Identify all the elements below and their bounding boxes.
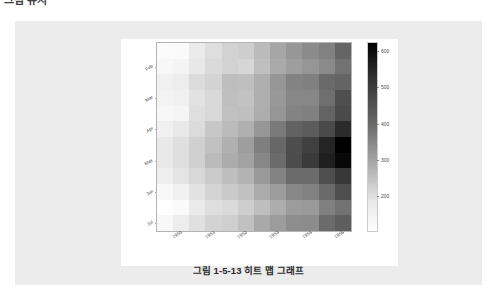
heatmap-cell <box>238 184 254 200</box>
heatmap-cell <box>189 90 205 106</box>
heatmap-cell <box>335 74 351 90</box>
heatmap-cell <box>189 43 205 59</box>
plot-canvas: FebMarAprMayJunJul 195019511952195319541… <box>121 39 398 266</box>
heatmap-cell <box>254 59 270 75</box>
heatmap-cell <box>205 74 221 90</box>
heatmap-cell <box>222 74 238 90</box>
heatmap-cell <box>205 121 221 137</box>
heatmap-cell <box>319 215 335 231</box>
heatmap-cell <box>254 184 270 200</box>
colorbar-tick-mark <box>377 51 379 52</box>
heatmap-cell <box>157 106 173 122</box>
heatmap-cell <box>157 137 173 153</box>
heatmap-cell <box>222 168 238 184</box>
heatmap-cell <box>270 184 286 200</box>
heatmap-cell <box>254 106 270 122</box>
heatmap-cell <box>335 168 351 184</box>
heatmap-cell <box>238 200 254 216</box>
heatmap-cell <box>254 90 270 106</box>
y-axis-tick-label: Jun <box>145 189 154 197</box>
heatmap-cell <box>222 200 238 216</box>
heatmap-cell <box>286 59 302 75</box>
heatmap-cell <box>319 168 335 184</box>
heatmap-cell <box>222 90 238 106</box>
heatmap-cell <box>254 168 270 184</box>
heatmap-cell <box>173 106 189 122</box>
heatmap-cell <box>189 106 205 122</box>
heatmap-cell <box>157 200 173 216</box>
colorbar-tick-mark <box>377 196 379 197</box>
colorbar-tick-mark <box>377 160 379 161</box>
heatmap-cell <box>270 215 286 231</box>
heatmap-cells <box>157 43 351 231</box>
colorbar-tick-label: 200 <box>381 194 389 199</box>
x-axis-tick-label: 1955 <box>334 231 345 240</box>
heatmap-cell <box>319 200 335 216</box>
heatmap-cell <box>302 184 318 200</box>
heatmap-cell <box>173 90 189 106</box>
heatmap-cell <box>302 90 318 106</box>
y-axis-tick-mark <box>155 98 157 99</box>
heatmap-cell <box>270 90 286 106</box>
heatmap-cell <box>189 215 205 231</box>
heatmap-cell <box>270 59 286 75</box>
heatmap-cell <box>157 59 173 75</box>
heatmap-cell <box>335 106 351 122</box>
heatmap-cell <box>238 215 254 231</box>
heatmap-cell <box>189 137 205 153</box>
heatmap-cell <box>205 43 221 59</box>
heatmap-cell <box>286 200 302 216</box>
heatmap-cell <box>335 90 351 106</box>
heatmap-cell <box>254 200 270 216</box>
heatmap-cell <box>319 121 335 137</box>
heatmap-cell <box>302 59 318 75</box>
colorbar-tick-label: 400 <box>381 121 389 126</box>
heatmap-cell <box>302 74 318 90</box>
colorbar-tick-label: 300 <box>381 157 389 162</box>
heatmap-cell <box>222 137 238 153</box>
heatmap-cell <box>222 121 238 137</box>
heatmap-cell <box>238 153 254 169</box>
y-axis-tick-mark <box>155 129 157 130</box>
heatmap-cell <box>222 215 238 231</box>
heatmap-cell <box>270 168 286 184</box>
y-axis-tick-label: Apr <box>146 127 155 135</box>
heatmap-cell <box>222 184 238 200</box>
heatmap-cell <box>173 74 189 90</box>
heatmap-cell <box>254 74 270 90</box>
x-axis-tick-label: 1951 <box>205 231 216 240</box>
heatmap-cell <box>173 200 189 216</box>
heatmap-cell <box>173 43 189 59</box>
heatmap-cell <box>238 59 254 75</box>
heatmap-cell <box>302 106 318 122</box>
heatmap-cell <box>205 168 221 184</box>
figure-caption: 그림 1-5-13 히트 맵 그래프 <box>15 263 482 277</box>
heatmap-cell <box>222 59 238 75</box>
y-axis-tick-mark <box>155 67 157 68</box>
heatmap-cell <box>222 43 238 59</box>
heatmap-cell <box>238 74 254 90</box>
heatmap-cell <box>157 121 173 137</box>
heatmap-cell <box>286 106 302 122</box>
y-axis-tick-mark <box>155 192 157 193</box>
heatmap-cell <box>157 168 173 184</box>
figure-panel: FebMarAprMayJunJul 195019511952195319541… <box>15 21 482 285</box>
heatmap-cell <box>205 137 221 153</box>
heatmap-cell <box>189 121 205 137</box>
heatmap-cell <box>173 184 189 200</box>
colorbar-tick-mark <box>377 87 379 88</box>
heatmap-cell <box>205 153 221 169</box>
y-axis-tick-label: May <box>144 158 154 166</box>
heatmap-cell <box>319 153 335 169</box>
heatmap-cell <box>302 200 318 216</box>
heatmap-cell <box>157 153 173 169</box>
heatmap-cell <box>157 90 173 106</box>
heatmap-cell <box>286 43 302 59</box>
heatmap-cell <box>205 90 221 106</box>
heatmap-cell <box>222 153 238 169</box>
heatmap-cell <box>286 137 302 153</box>
heatmap-cell <box>254 153 270 169</box>
heatmap-cell <box>270 74 286 90</box>
heatmap-cell <box>205 200 221 216</box>
heatmap-cell <box>319 90 335 106</box>
